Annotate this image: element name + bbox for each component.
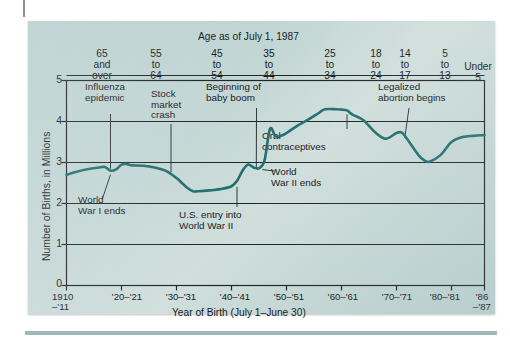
bottom-divider-rule — [25, 331, 497, 335]
plot-frame — [67, 81, 485, 286]
crop-mark — [23, 0, 25, 17]
annotation-leader-lines — [102, 108, 409, 207]
birth-rate-chart-figure: Age as of July 1, 1987 65 and over 55 to… — [28, 21, 495, 314]
gridlines — [67, 81, 485, 245]
x-axis-ticks — [67, 286, 485, 291]
y-axis-ticks — [62, 81, 67, 286]
chart-svg — [28, 21, 495, 314]
